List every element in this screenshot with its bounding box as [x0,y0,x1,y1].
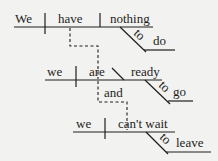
clause-3: we can't wait to leave [73,116,211,154]
subject-1: We [15,11,32,26]
modifier-word-2: go [173,84,186,99]
complement-2: ready [131,64,160,79]
verb-2: are [89,64,105,79]
subject-3: we [76,116,91,131]
object-1: nothing [110,11,150,26]
complement-slash-2 [112,68,124,80]
subject-2: we [47,64,62,79]
sentence-diagram: We have nothing to do we are ready to go… [0,0,218,161]
modifier-word-1: do [153,33,166,48]
verb-1: have [58,11,83,26]
conjunction: and [104,85,123,100]
modifier-word-3: leave [176,135,204,150]
clause-1: We have nothing to do [14,11,175,52]
verb-3: can't wait [118,116,168,131]
